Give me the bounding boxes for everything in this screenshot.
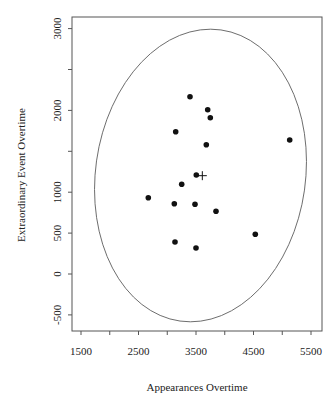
data-point bbox=[194, 172, 200, 178]
y-tick-label: 0 bbox=[51, 271, 63, 277]
x-tick-label: 5500 bbox=[300, 345, 323, 357]
mean-marker bbox=[198, 171, 207, 180]
data-point bbox=[193, 245, 199, 251]
data-point bbox=[146, 195, 152, 201]
x-axis-title: Appearances Overtime bbox=[146, 381, 247, 393]
data-point bbox=[208, 115, 214, 121]
y-tick-label: 3000 bbox=[51, 17, 63, 39]
data-point bbox=[187, 94, 193, 100]
y-tick-label: 1000 bbox=[51, 181, 63, 204]
data-point bbox=[173, 129, 179, 135]
y-tick-label: 2000 bbox=[51, 99, 63, 122]
y-tick-label: -500 bbox=[51, 304, 63, 325]
x-tick-label: 4500 bbox=[243, 345, 266, 357]
data-point bbox=[205, 107, 211, 113]
y-tick-label: 500 bbox=[51, 224, 63, 241]
data-point bbox=[172, 201, 178, 207]
y-axis-title: Extraordinary Event Overtime bbox=[15, 108, 27, 242]
data-point bbox=[253, 232, 259, 238]
x-tick-label: 2500 bbox=[128, 345, 151, 357]
data-points bbox=[146, 94, 293, 251]
data-point bbox=[179, 182, 185, 188]
x-tick-label: 1500 bbox=[70, 345, 93, 357]
chart-canvas: 15002500350045005500 -500050010002000300… bbox=[0, 0, 334, 409]
data-point bbox=[204, 142, 210, 148]
y-axis: -5000500100020003000 bbox=[51, 17, 72, 325]
data-point bbox=[192, 202, 198, 208]
x-tick-label: 3500 bbox=[185, 345, 208, 357]
x-axis: 15002500350045005500 bbox=[70, 331, 323, 357]
scatter-chart: 15002500350045005500 -500050010002000300… bbox=[0, 0, 334, 409]
data-point bbox=[172, 239, 178, 245]
data-point bbox=[287, 137, 293, 143]
data-point bbox=[213, 209, 219, 215]
